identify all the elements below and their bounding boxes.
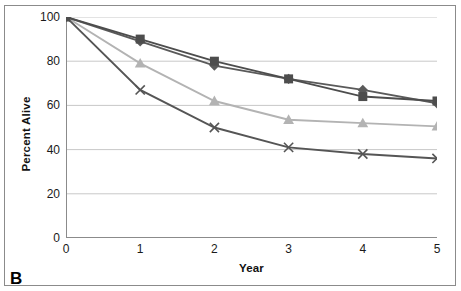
data-point-square [284, 74, 293, 83]
x-axis-tick-labels: 012345 [66, 243, 437, 259]
y-tick-label: 80 [47, 55, 60, 67]
x-tick-label: 3 [285, 243, 292, 255]
x-tick-label: 0 [63, 243, 70, 255]
y-tick-label: 20 [47, 188, 60, 200]
data-point-square [358, 92, 367, 101]
x-tick-label: 1 [137, 243, 144, 255]
series-line-series-square [66, 17, 437, 101]
data-point-square [210, 57, 219, 66]
y-tick-label: 40 [47, 144, 60, 156]
data-point-square [433, 96, 438, 105]
series-line-series-cross [66, 17, 437, 158]
y-tick-label: 0 [53, 232, 60, 244]
data-point-triangle [135, 58, 146, 68]
figure-panel-b: 020406080100 Percent Alive 012345 Year B [0, 0, 461, 291]
data-point-square [136, 35, 145, 44]
data-point-square [66, 17, 71, 22]
plot-area [66, 17, 437, 238]
x-tick-label: 4 [359, 243, 366, 255]
x-tick-label: 5 [434, 243, 441, 255]
data-point-x [136, 85, 145, 94]
x-axis-title: Year [66, 262, 437, 274]
y-tick-label: 100 [40, 11, 60, 23]
x-tick-label: 2 [211, 243, 218, 255]
data-point-triangle [209, 96, 220, 106]
y-tick-label: 60 [47, 99, 60, 111]
panel-label: B [10, 270, 22, 287]
chart-svg [66, 17, 437, 238]
series-line-series-diamond [66, 17, 437, 103]
y-axis-title: Percent Alive [20, 64, 32, 204]
